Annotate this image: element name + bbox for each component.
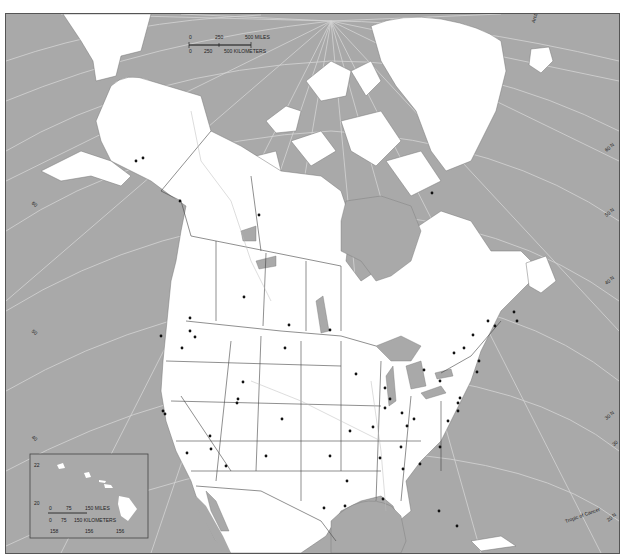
inset-lon-156a: 156 <box>85 528 93 534</box>
scale-miles-250: 250 <box>215 34 223 40</box>
scale-km-500: 500 KILOMETERS <box>224 48 266 54</box>
inset-scale-km-150: 150 KILOMETERS <box>74 517 116 523</box>
inset-lon-156b: 156 <box>116 528 124 534</box>
scale-miles-500: 500 MILES <box>245 34 270 40</box>
scale-km-0: 0 <box>189 48 192 54</box>
inset-lon-158: 158 <box>50 528 58 534</box>
scale-km-250: 250 <box>204 48 212 54</box>
inset-scale-km-75: 75 <box>61 517 67 523</box>
inset-lat-22: 22 <box>34 462 40 468</box>
inset-scale-miles-75: 75 <box>66 505 72 511</box>
inset-scale-km-0: 0 <box>49 517 52 523</box>
inset-lat-20: 20 <box>34 500 40 506</box>
hawaii-inset <box>30 454 148 538</box>
inset-scale-miles-150: 150 MILES <box>85 505 110 511</box>
inset-scale-miles-0: 0 <box>49 505 52 511</box>
scale-miles-0: 0 <box>189 34 192 40</box>
north-america-map <box>6 14 619 553</box>
map-frame: 0 250 500 MILES 0 250 500 KILOMETERS 22 … <box>5 13 620 554</box>
